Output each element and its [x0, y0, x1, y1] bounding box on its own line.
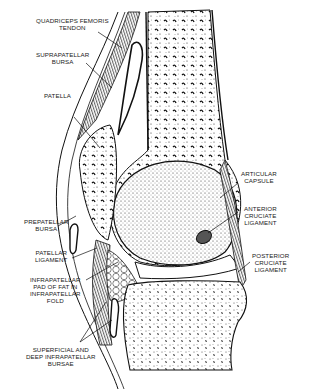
label-infrapatellar-fat-pad: INFRAPATELLARPAD OF FAT ININFRAPATELLARF…	[30, 276, 81, 304]
prepatellar-bursa	[70, 224, 78, 254]
deep-infrapatellar-bursa	[110, 299, 119, 337]
label-articular-capsule: ARTICULARCAPSULE	[241, 170, 277, 184]
label-posterior-cruciate-ligament: POSTERIORCRUCIATELIGAMENT	[252, 252, 289, 273]
label-patella: PATELLA	[44, 92, 71, 99]
patella	[79, 125, 116, 240]
tibia	[124, 281, 247, 370]
label-quadriceps-femoris-tendon: QUADRICEPS FEMORISTENDON	[36, 17, 109, 31]
label-anterior-cruciate-ligament: ANTERIORCRUCIATELIGAMENT	[244, 205, 277, 226]
label-suprapatellar-bursa: SUPRAPATELLARBURSA	[36, 51, 89, 65]
femoral-condyle	[114, 161, 237, 265]
label-patellar-ligament: PATELLARLIGAMENT	[35, 249, 67, 263]
label-prepatellar-bursa: PREPATELLARBURSA	[24, 218, 69, 232]
label-infrapatellar-bursae: SUPERFICIAL ANDDEEP INFRAPATELLARBURSAE	[26, 346, 96, 367]
